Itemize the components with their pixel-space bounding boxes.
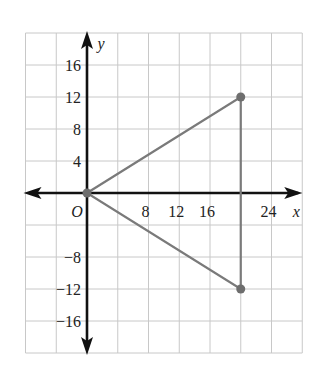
x-tick-label: 16 [199, 203, 215, 220]
y-tick-label: −16 [56, 313, 81, 330]
vertex-point [83, 189, 92, 198]
y-axis-label: y [95, 35, 105, 53]
x-axis-label: x [292, 203, 300, 220]
x-tick-label: 24 [261, 203, 277, 220]
y-tick-label: 4 [73, 153, 81, 170]
origin-label: O [71, 203, 83, 220]
vertex-point [236, 93, 245, 102]
y-tick-label: 16 [65, 57, 81, 74]
coordinate-plane: 8121624161284−8−12−16Oxy [0, 0, 311, 382]
tick-labels: 8121624161284−8−12−16Oxy [56, 35, 300, 330]
y-tick-label: −12 [56, 281, 81, 298]
y-tick-label: 8 [73, 121, 81, 138]
y-tick-label: −8 [64, 249, 81, 266]
y-tick-label: 12 [65, 89, 81, 106]
x-tick-label: 12 [168, 203, 184, 220]
axes [24, 31, 303, 355]
vertex-point [236, 285, 245, 294]
x-tick-label: 8 [142, 203, 150, 220]
